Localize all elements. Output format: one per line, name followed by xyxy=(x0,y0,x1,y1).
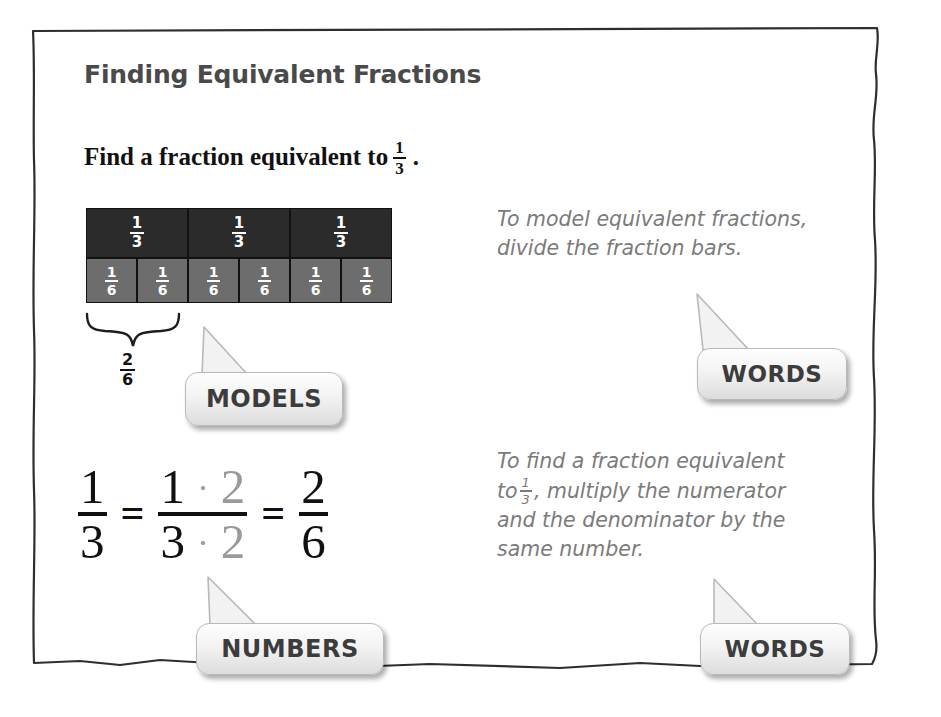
callout-models-bubble[interactable]: MODELS xyxy=(185,372,343,426)
prompt-period: . xyxy=(413,143,419,171)
equation-middle-fraction: 1 · 2 3 · 2 xyxy=(158,462,247,566)
equation: 1 3 = 1 · 2 3 · 2 = 2 6 xyxy=(78,462,328,566)
prompt-fraction-numerator: 1 xyxy=(393,139,406,156)
equals-sign: = xyxy=(121,489,145,537)
inline-fraction-denominator: 3 xyxy=(520,493,532,506)
callout-words-top[interactable]: WORDS xyxy=(697,348,847,400)
left-numerator: 1 xyxy=(78,462,107,511)
cell-numerator: 1 xyxy=(258,265,272,279)
middle-numerator-multiplier: 2 xyxy=(221,459,246,514)
right-denominator: 6 xyxy=(299,517,328,566)
fraction-cell: 1 6 xyxy=(86,258,137,303)
cell-numerator: 1 xyxy=(156,265,170,279)
callout-words-bottom-label: WORDS xyxy=(725,636,826,662)
note-line-prefix: to xyxy=(497,477,518,506)
cell-denominator: 6 xyxy=(105,283,119,297)
prompt-line: Find a fraction equivalent to 1 3 . xyxy=(84,138,419,176)
multiply-dot-icon: · xyxy=(197,469,208,506)
equation-right-fraction: 2 6 xyxy=(299,462,328,566)
equals-sign: = xyxy=(261,489,285,537)
fraction-cell: 1 3 xyxy=(188,208,290,258)
fraction-cell: 1 6 xyxy=(341,258,392,303)
fraction-cell: 1 3 xyxy=(290,208,392,258)
sixths-row: 1 6 1 6 1 6 xyxy=(86,258,392,303)
middle-denominator: 3 · 2 xyxy=(158,517,247,566)
words-note-top: To model equivalent fractions, divide th… xyxy=(497,205,807,263)
inline-fraction: 1 3 xyxy=(520,476,532,506)
cell-denominator: 6 xyxy=(207,283,221,297)
note-line: divide the fraction bars. xyxy=(497,234,807,263)
callout-models-label: MODELS xyxy=(206,385,322,413)
callout-models[interactable]: MODELS xyxy=(185,372,343,426)
cell-numerator: 1 xyxy=(360,265,374,279)
fraction-cell: 1 6 xyxy=(188,258,239,303)
brace-label-denominator: 6 xyxy=(120,372,135,388)
fraction-bar-model: 1 3 1 3 1 3 xyxy=(86,208,392,303)
note-line: To model equivalent fractions, xyxy=(497,205,807,234)
note-line: to 1 3 , multiply the numerator xyxy=(497,476,785,506)
callout-words-bottom-bubble[interactable]: WORDS xyxy=(700,623,850,675)
middle-numerator-base: 1 xyxy=(160,459,185,514)
prompt-fraction-denominator: 3 xyxy=(393,160,406,177)
note-line-suffix: , multiply the numerator xyxy=(534,477,786,506)
cell-numerator: 1 xyxy=(207,265,221,279)
lesson-page: Finding Equivalent Fractions Find a frac… xyxy=(0,0,941,717)
cell-denominator: 3 xyxy=(130,235,144,250)
equation-left-fraction: 1 3 xyxy=(78,462,107,566)
callout-words-bottom[interactable]: WORDS xyxy=(700,623,850,675)
middle-denominator-base: 3 xyxy=(160,514,185,569)
note-line: same number. xyxy=(497,535,785,564)
callout-numbers-label: NUMBERS xyxy=(221,635,358,663)
left-denominator: 3 xyxy=(78,517,107,566)
words-note-bottom: To find a fraction equivalent to 1 3 , m… xyxy=(497,447,785,564)
fraction-cell: 1 6 xyxy=(239,258,290,303)
right-numerator: 2 xyxy=(299,462,328,511)
inline-fraction-numerator: 1 xyxy=(520,476,532,489)
middle-numerator: 1 · 2 xyxy=(158,462,247,511)
cell-denominator: 6 xyxy=(309,283,323,297)
middle-denominator-multiplier: 2 xyxy=(221,514,246,569)
callout-words-top-bubble[interactable]: WORDS xyxy=(697,348,847,400)
prompt-fraction: 1 3 xyxy=(393,139,406,177)
cell-numerator: 1 xyxy=(309,265,323,279)
page-title: Finding Equivalent Fractions xyxy=(84,60,481,89)
cell-numerator: 1 xyxy=(232,216,246,231)
callout-words-top-label: WORDS xyxy=(722,361,823,387)
multiply-dot-icon: · xyxy=(197,524,208,561)
brace-label-numerator: 2 xyxy=(120,352,135,368)
cell-denominator: 3 xyxy=(232,235,246,250)
cell-denominator: 6 xyxy=(360,283,374,297)
cell-denominator: 3 xyxy=(334,235,348,250)
note-line: To find a fraction equivalent xyxy=(497,447,785,476)
prompt-text: Find a fraction equivalent to xyxy=(84,143,388,171)
fraction-cell: 1 3 xyxy=(86,208,188,258)
note-line: and the denominator by the xyxy=(497,506,785,535)
callout-numbers-bubble[interactable]: NUMBERS xyxy=(196,623,384,675)
cell-numerator: 1 xyxy=(105,265,119,279)
brace-label: 2 6 xyxy=(120,352,135,388)
cell-numerator: 1 xyxy=(334,216,348,231)
cell-denominator: 6 xyxy=(258,283,272,297)
thirds-row: 1 3 1 3 1 3 xyxy=(86,208,392,258)
fraction-cell: 1 6 xyxy=(290,258,341,303)
cell-numerator: 1 xyxy=(130,216,144,231)
callout-numbers[interactable]: NUMBERS xyxy=(196,623,384,675)
cell-denominator: 6 xyxy=(156,283,170,297)
fraction-cell: 1 6 xyxy=(137,258,188,303)
brace-icon xyxy=(83,312,203,354)
